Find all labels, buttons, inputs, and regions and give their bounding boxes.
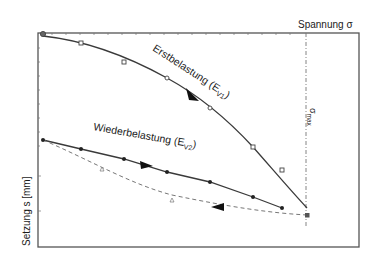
plot-frame xyxy=(38,33,359,247)
erst-arrow-icon xyxy=(186,88,199,101)
svg-text:σmax: σmax xyxy=(306,108,318,127)
wiederbelastung-curve xyxy=(43,140,282,208)
y-axis-label: Setzung s [mm] xyxy=(21,176,32,246)
svg-text:Wiederbelastung (EV2): Wiederbelastung (EV2) xyxy=(92,120,197,152)
x-axis-label: Spannung σ xyxy=(298,19,353,30)
sigma-max-label: σmax xyxy=(306,108,318,127)
entlastung-curve xyxy=(43,140,307,215)
entlastung-markers xyxy=(100,167,310,218)
wiederbelastung-label: Wiederbelastung (EV2) xyxy=(92,120,197,152)
entlastung-arrow-icon xyxy=(211,203,224,211)
chart: Spannung σ Setzung s [mm] Erstbelastung … xyxy=(0,0,383,272)
